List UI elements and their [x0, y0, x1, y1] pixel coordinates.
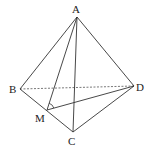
edge-md [47, 86, 134, 110]
edge-am [47, 17, 77, 110]
edge-cd [73, 86, 134, 132]
label-d: D [136, 81, 144, 93]
angle-mark-amd [49, 103, 54, 108]
edge-ad [77, 17, 134, 86]
label-c: C [68, 135, 75, 147]
edge-bd-dashed [20, 86, 134, 89]
edge-ab [20, 17, 77, 89]
edge-ac [73, 17, 77, 132]
tetrahedron-diagram: A B C D M [0, 0, 150, 153]
label-b: B [9, 83, 16, 95]
label-m: M [35, 112, 45, 124]
edge-bc [20, 89, 73, 132]
label-a: A [72, 3, 80, 15]
